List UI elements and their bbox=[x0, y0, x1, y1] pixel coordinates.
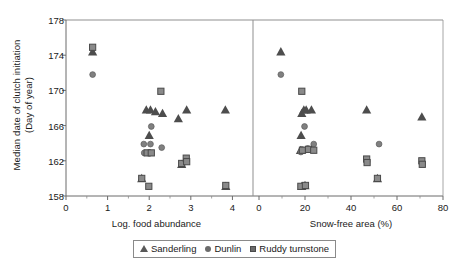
data-point-square bbox=[364, 159, 370, 165]
data-point-triangle bbox=[145, 131, 154, 139]
data-point-square bbox=[139, 175, 145, 181]
data-point-circle bbox=[148, 141, 154, 147]
data-point-triangle bbox=[174, 114, 183, 122]
figure-scatter-chart: Median date of clutch initiation (Day of… bbox=[0, 0, 453, 264]
data-point-circle bbox=[141, 141, 147, 147]
data-point-circle bbox=[376, 141, 382, 147]
data-point-circle bbox=[148, 124, 154, 130]
data-point-triangle bbox=[362, 105, 371, 113]
triangle-marker-icon bbox=[140, 245, 148, 252]
y-axis-tick-label: 162 bbox=[48, 155, 64, 166]
circle-marker-icon bbox=[205, 246, 211, 252]
data-point-circle bbox=[302, 124, 308, 130]
data-point-square bbox=[299, 88, 305, 94]
square-marker-icon bbox=[250, 246, 256, 252]
data-point-square bbox=[148, 150, 154, 156]
legend-label: Ruddy turnstone bbox=[259, 242, 329, 255]
y-axis-title-line1: Median date of clutch initiation bbox=[10, 40, 22, 171]
legend-item-sanderling: Sanderling bbox=[140, 242, 196, 255]
y-axis-tick-labels: 158162166170174178 bbox=[36, 0, 64, 264]
legend: SanderlingDunlinRuddy turnstone bbox=[133, 240, 336, 258]
y-axis-title-line2: (Day of year) bbox=[22, 40, 34, 171]
data-point-circle bbox=[278, 72, 284, 78]
y-axis-tick-label: 174 bbox=[48, 50, 64, 61]
data-point-square bbox=[374, 175, 380, 181]
data-point-square bbox=[146, 183, 152, 189]
data-point-circle bbox=[90, 72, 96, 78]
data-point-square bbox=[184, 159, 190, 165]
data-point-triangle bbox=[158, 109, 167, 117]
data-point-square bbox=[158, 88, 164, 94]
y-axis-tick-label: 178 bbox=[48, 15, 64, 26]
data-point-circle bbox=[159, 145, 165, 151]
legend-label: Sanderling bbox=[151, 242, 196, 255]
y-axis-tick-label: 166 bbox=[48, 120, 64, 131]
legend-item-ruddy-turnstone: Ruddy turnstone bbox=[250, 242, 329, 255]
plot-area bbox=[0, 0, 453, 264]
data-point-square bbox=[299, 147, 305, 153]
data-point-triangle bbox=[221, 105, 230, 113]
data-point-triangle bbox=[182, 105, 191, 113]
legend-label: Dunlin bbox=[214, 242, 241, 255]
data-point-triangle bbox=[296, 131, 305, 139]
data-point-triangle bbox=[276, 47, 285, 55]
data-point-square bbox=[90, 44, 96, 50]
data-point-square bbox=[419, 161, 425, 167]
data-point-square bbox=[223, 182, 229, 188]
data-point-square bbox=[302, 182, 308, 188]
y-axis-tick-label: 170 bbox=[48, 85, 64, 96]
data-point-square bbox=[311, 147, 317, 153]
data-point-triangle bbox=[417, 112, 426, 120]
legend-item-dunlin: Dunlin bbox=[205, 242, 241, 255]
y-axis-tick-label: 158 bbox=[48, 191, 64, 202]
